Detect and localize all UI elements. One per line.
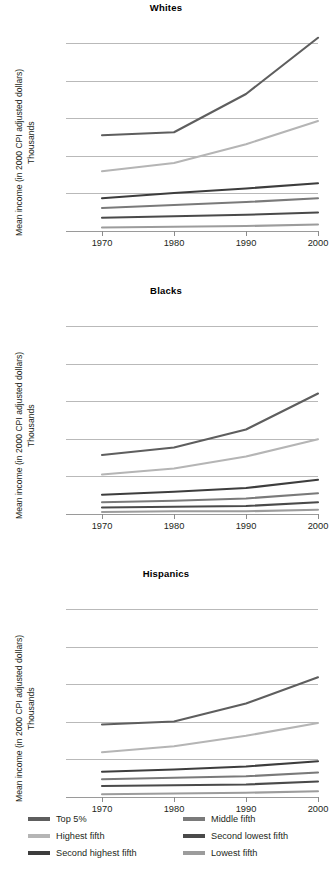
x-tick-mark (174, 231, 175, 236)
x-tick-label: 1970 (82, 521, 122, 531)
legend-label: Top 5% (56, 814, 87, 824)
y-axis-label-primary: Mean income (in 2000 CPI adjusted dollar… (14, 635, 24, 802)
legend-item-lowest-fifth: Lowest fifth (183, 846, 257, 860)
y-axis-label-group: Mean income (in 2000 CPI adjusted dollar… (0, 297, 40, 527)
legend-item-top-5-: Top 5% (28, 812, 87, 826)
y-axis-label-units: Thousands (26, 121, 36, 164)
series-line-lowest-fifth (102, 791, 318, 794)
series-line-highest-fifth (102, 121, 318, 171)
legend-swatch-icon (28, 851, 50, 855)
legend-item-second-highest-fifth: Second highest fifth (28, 846, 137, 860)
chart-panel-hispanics: HispanicsMean income (in 2000 CPI adjust… (0, 566, 332, 849)
series-lines (66, 600, 318, 804)
series-line-middle-fifth (102, 198, 318, 208)
x-tick-label: 1980 (154, 521, 194, 531)
plot-area: 0501001502002501970198019902000 (66, 600, 318, 804)
chart-legend: Top 5%Middle fifthHighest fifthSecond lo… (0, 812, 332, 864)
x-tick-label: 1990 (226, 238, 266, 248)
charts-container: WhitesMean income (in 2000 CPI adjusted … (0, 0, 332, 849)
chart-panel-whites: WhitesMean income (in 2000 CPI adjusted … (0, 0, 332, 283)
legend-item-second-lowest-fifth: Second lowest fifth (183, 829, 288, 843)
x-tick-mark (246, 231, 247, 236)
series-line-second-lowest-fifth (102, 502, 318, 507)
x-tick-mark (318, 514, 319, 519)
series-line-lowest-fifth (102, 510, 318, 512)
x-tick-mark (246, 797, 247, 802)
x-tick-label: 2000 (298, 238, 332, 248)
x-tick-mark (174, 797, 175, 802)
legend-label: Middle fifth (211, 814, 255, 824)
y-axis-label-primary: Mean income (in 2000 CPI adjusted dollar… (14, 352, 24, 519)
x-tick-mark (318, 797, 319, 802)
x-tick-mark (246, 514, 247, 519)
legend-item-middle-fifth: Middle fifth (183, 812, 255, 826)
legend-swatch-icon (183, 817, 205, 821)
chart-title: Blacks (0, 285, 332, 296)
legend-label: Second lowest fifth (211, 831, 288, 841)
series-line-highest-fifth (102, 723, 318, 752)
series-line-second-lowest-fifth (102, 213, 318, 218)
series-line-second-highest-fifth (102, 761, 318, 772)
legend-label: Highest fifth (56, 831, 105, 841)
series-line-lowest-fifth (102, 225, 318, 228)
y-axis-label-units: Thousands (26, 687, 36, 730)
legend-label: Lowest fifth (211, 848, 257, 858)
x-tick-label: 1970 (82, 238, 122, 248)
series-line-second-highest-fifth (102, 480, 318, 495)
series-line-middle-fifth (102, 493, 318, 502)
chart-title: Whites (0, 2, 332, 13)
legend-item-highest-fifth: Highest fifth (28, 829, 105, 843)
series-line-top-5- (102, 677, 318, 724)
y-axis-label-group: Mean income (in 2000 CPI adjusted dollar… (0, 14, 40, 244)
series-line-second-highest-fifth (102, 183, 318, 198)
x-tick-label: 2000 (298, 521, 332, 531)
legend-label: Second highest fifth (56, 848, 137, 858)
x-tick-mark (102, 797, 103, 802)
series-line-second-lowest-fifth (102, 782, 318, 787)
x-tick-label: 1980 (154, 238, 194, 248)
x-tick-mark (102, 514, 103, 519)
series-line-middle-fifth (102, 773, 318, 780)
plot-area: 0501001502002501970198019902000 (66, 317, 318, 521)
x-tick-label: 1990 (226, 521, 266, 531)
x-tick-mark (318, 231, 319, 236)
chart-panel-blacks: BlacksMean income (in 2000 CPI adjusted … (0, 283, 332, 566)
series-line-highest-fifth (102, 439, 318, 474)
y-axis-label-primary: Mean income (in 2000 CPI adjusted dollar… (14, 69, 24, 236)
x-tick-mark (174, 514, 175, 519)
legend-swatch-icon (183, 851, 205, 855)
series-line-top-5- (102, 394, 318, 456)
chart-title: Hispanics (0, 568, 332, 579)
series-lines (66, 317, 318, 521)
plot-area: 0501001502002501970198019902000 (66, 34, 318, 238)
series-lines (66, 34, 318, 238)
series-line-top-5- (102, 38, 318, 136)
x-tick-mark (102, 231, 103, 236)
legend-swatch-icon (28, 817, 50, 821)
y-axis-label-units: Thousands (26, 404, 36, 447)
legend-swatch-icon (28, 834, 50, 838)
y-axis-label-group: Mean income (in 2000 CPI adjusted dollar… (0, 580, 40, 810)
legend-swatch-icon (183, 834, 205, 838)
